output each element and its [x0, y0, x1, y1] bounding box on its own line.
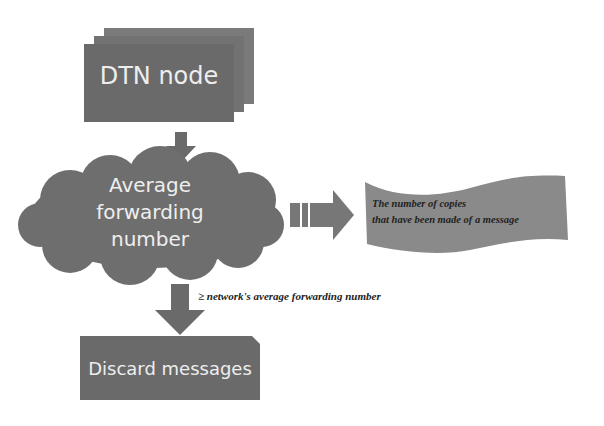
arrow-right-icon [290, 190, 354, 240]
dtn-node-label: DTN node [84, 62, 234, 90]
copies-note-label: The number of copies that have been made… [372, 196, 572, 228]
cloud-line-3: number [60, 226, 240, 253]
discard-label: Discard messages [80, 358, 260, 379]
banner-line-2: that have been made of a message [372, 212, 572, 228]
condition-label: ≥ network's average forwarding number [198, 290, 381, 302]
cloud-line-2: forwarding [60, 199, 240, 226]
banner-line-1: The number of copies [372, 196, 572, 212]
average-forwarding-label: Average forwarding number [60, 172, 240, 253]
cloud-line-1: Average [60, 172, 240, 199]
